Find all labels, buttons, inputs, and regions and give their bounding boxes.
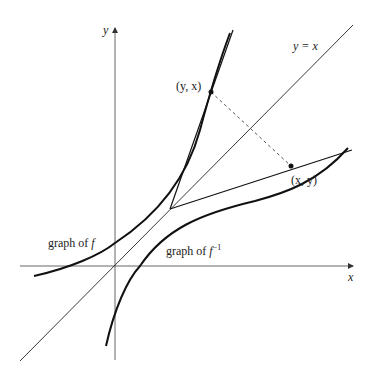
identity-line-label: y = x <box>293 40 318 52</box>
graph-inverse-label-exponent: −1 <box>213 243 222 252</box>
point-on-f-label: (y, x) <box>176 80 201 92</box>
graph-inverse-label: graph of f−1 <box>166 244 221 257</box>
identity-line <box>20 25 353 361</box>
graph-f-label-prefix: graph of <box>48 236 91 250</box>
point-on-f <box>209 90 214 95</box>
reflection-segment <box>211 92 291 166</box>
tangent-line-f <box>170 30 233 209</box>
inverse-function-diagram <box>0 0 376 378</box>
graph-inverse-label-prefix: graph of <box>166 244 209 258</box>
y-axis-label: y <box>103 24 108 36</box>
graph-f-label-symbol: f <box>91 236 94 250</box>
point-on-inverse-label: (x, y) <box>291 174 317 186</box>
x-axis-label: x <box>348 271 353 283</box>
graph-f-label: graph of f <box>48 237 95 249</box>
point-on-inverse <box>289 164 294 169</box>
